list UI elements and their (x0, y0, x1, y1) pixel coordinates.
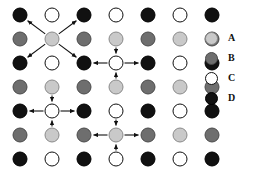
legend-swatch-c-icon (205, 72, 218, 85)
atom-d (205, 8, 220, 23)
atom-d (13, 56, 28, 71)
arrow-overlay (0, 0, 200, 173)
atom-c (173, 152, 188, 167)
lattice-figure: ABCD (0, 0, 262, 173)
atom-c (109, 104, 124, 119)
atom-b (77, 32, 92, 47)
legend-swatch-d-icon (205, 92, 218, 105)
center-c-cross (45, 104, 60, 119)
legend: ABCD (205, 28, 262, 108)
atom-b (13, 80, 28, 95)
atom-c (173, 8, 188, 23)
arrow-diagonal-0 (28, 21, 46, 34)
atom-a (173, 80, 188, 95)
atom-d (13, 152, 28, 167)
atom-c (45, 56, 60, 71)
atom-d (205, 152, 220, 167)
atom-d (13, 104, 28, 119)
atom-a (173, 32, 188, 47)
atom-a (109, 32, 124, 47)
atom-c (109, 152, 124, 167)
atom-c (173, 104, 188, 119)
atom-b (77, 80, 92, 95)
atom-d (141, 8, 156, 23)
legend-item-c: C (205, 68, 262, 88)
atom-b (141, 80, 156, 95)
atom-a (45, 128, 60, 143)
center-a-diagonal (45, 32, 60, 47)
atom-a (45, 80, 60, 95)
legend-label: D (228, 93, 235, 103)
legend-swatch-b-icon (205, 52, 218, 65)
legend-label: B (228, 53, 235, 63)
atom-d (77, 152, 92, 167)
atom-d (77, 104, 92, 119)
arrow-diagonal-1 (59, 21, 77, 34)
atom-b (141, 128, 156, 143)
atom-a (173, 128, 188, 143)
atom-a (109, 80, 124, 95)
arrow-diagonal-2 (28, 44, 46, 57)
atom-d (141, 56, 156, 71)
atom-b (13, 32, 28, 47)
legend-label: A (228, 33, 235, 43)
atom-d (77, 8, 92, 23)
legend-swatch-a-icon (205, 32, 218, 45)
atom-d (77, 56, 92, 71)
atom-b (205, 128, 220, 143)
atom-d (141, 152, 156, 167)
center-d-cross (109, 56, 124, 71)
atom-c (173, 56, 188, 71)
legend-item-d: D (205, 88, 262, 108)
atom-c (109, 8, 124, 23)
center-b-cross (109, 128, 124, 143)
legend-item-b: B (205, 48, 262, 68)
lattice-grid (0, 0, 200, 173)
atom-b (13, 128, 28, 143)
atom-d (13, 8, 28, 23)
atom-b (77, 128, 92, 143)
legend-item-a: A (205, 28, 262, 48)
atom-b (141, 32, 156, 47)
atom-d (141, 104, 156, 119)
legend-label: C (228, 73, 235, 83)
atom-c (45, 8, 60, 23)
arrow-diagonal-3 (59, 44, 77, 57)
atom-c (45, 152, 60, 167)
